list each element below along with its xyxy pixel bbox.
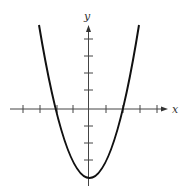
parabola-chart: x y	[0, 0, 186, 188]
y-axis-arrow-icon	[86, 25, 91, 32]
x-axis-label: x	[172, 103, 179, 116]
x-axis-arrow-icon	[161, 107, 168, 112]
y-axis-label: y	[83, 10, 91, 23]
